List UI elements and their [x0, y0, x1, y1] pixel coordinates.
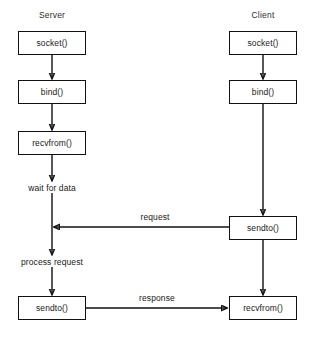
server-wait-for-data-label: wait for data — [2, 183, 102, 193]
client-sendto-node[interactable]: sendto() — [229, 216, 297, 240]
server-bind-node[interactable]: bind() — [18, 80, 86, 104]
client-recvfrom-node[interactable]: recvfrom() — [229, 296, 297, 320]
server-sendto-node[interactable]: sendto() — [18, 296, 86, 320]
client-bind-node[interactable]: bind() — [229, 80, 297, 104]
server-socket-node[interactable]: socket() — [18, 31, 86, 55]
column-title-client: Client — [233, 10, 293, 20]
server-process-request-label: process request — [2, 257, 102, 267]
client-socket-node[interactable]: socket() — [229, 31, 297, 55]
edge-label-request: request — [125, 212, 185, 222]
udp-socket-flow-diagram: Server Client socket() bind() recvfrom()… — [0, 0, 313, 337]
column-title-server: Server — [22, 10, 82, 20]
edge-label-response: response — [125, 293, 189, 303]
server-recvfrom-node[interactable]: recvfrom() — [18, 131, 86, 155]
